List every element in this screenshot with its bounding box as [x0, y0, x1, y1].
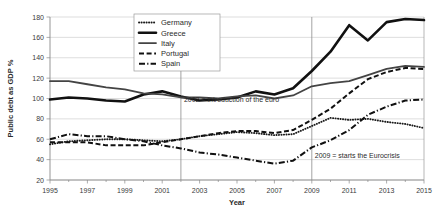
y-tick-label: 180	[32, 14, 44, 21]
x-tick-label: 2005	[229, 187, 245, 194]
y-tick-label: 100	[32, 95, 44, 102]
annotation-2002: 2002 = introduction of the euro	[184, 96, 279, 103]
legend-label-spain: Spain	[161, 59, 180, 68]
y-tick-label: 120	[32, 75, 44, 82]
line-chart: 20406080100120140160180 1995199719992001…	[0, 0, 438, 216]
y-tick-label: 80	[36, 115, 44, 122]
x-tick-label: 1995	[42, 187, 58, 194]
x-tick-label: 2007	[267, 187, 283, 194]
y-tick-label: 140	[32, 54, 44, 61]
x-tick-label: 2009	[304, 187, 320, 194]
x-tick-label: 2001	[154, 187, 170, 194]
x-tick-label: 1999	[117, 187, 133, 194]
y-tick-label: 40	[36, 156, 44, 163]
x-tick-label: 2011	[342, 187, 357, 194]
y-tick-label: 20	[36, 177, 44, 184]
x-axis-title: Year	[229, 198, 245, 207]
x-tick-label: 2003	[192, 187, 208, 194]
chart-legend: GermanyGreeceItalyPortugalSpain	[134, 14, 220, 71]
x-tick-label: 2013	[379, 187, 395, 194]
legend-label-germany: Germany	[161, 18, 192, 27]
annotation-2009: 2009 = starts the Eurocrisis	[315, 152, 401, 159]
y-axis-title: Public debt as GDP %	[6, 59, 15, 137]
y-tick-label: 160	[32, 34, 44, 41]
legend-label-portugal: Portugal	[161, 49, 189, 58]
x-tick-label: 1997	[80, 187, 96, 194]
y-tick-label: 60	[36, 136, 44, 143]
x-tick-label: 2015	[416, 187, 432, 194]
legend-label-italy: Italy	[161, 39, 175, 48]
chart-container: 20406080100120140160180 1995199719992001…	[0, 0, 438, 216]
legend-label-greece: Greece	[161, 29, 186, 38]
